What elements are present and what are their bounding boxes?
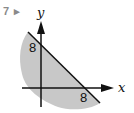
x-axis-label: x [118, 80, 126, 95]
x-intercept-label: 8 [80, 90, 87, 105]
graph: y x 8 8 [0, 0, 134, 113]
y-axis-arrow-icon [37, 21, 45, 34]
y-axis-label: y [36, 5, 45, 20]
x-axis-arrow-icon [101, 84, 114, 92]
y-intercept-label: 8 [29, 40, 36, 55]
